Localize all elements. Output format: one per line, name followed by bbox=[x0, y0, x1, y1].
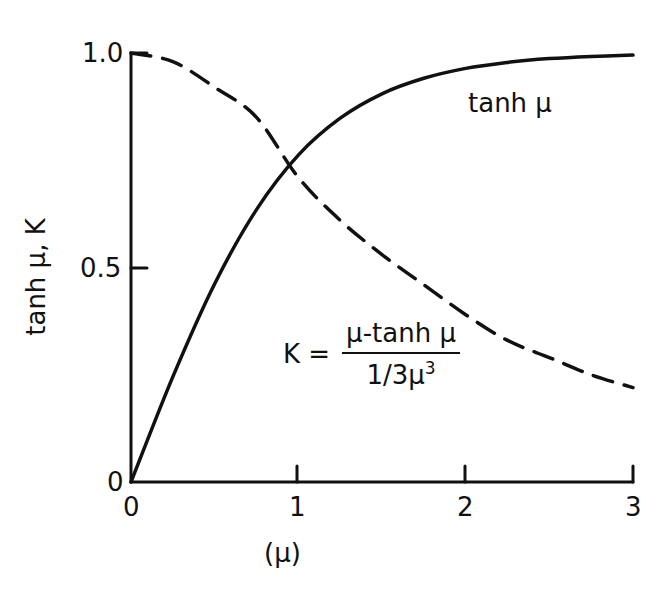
k-formula-numerator: μ-tanh μ bbox=[342, 318, 460, 354]
k-formula-den-exponent: 3 bbox=[425, 358, 436, 378]
axes bbox=[131, 53, 633, 482]
x-tick-label-0: 0 bbox=[123, 494, 140, 520]
y-tick-label-05: 0.5 bbox=[80, 255, 121, 281]
k-formula: K = μ-tanh μ 1/3μ3 bbox=[283, 318, 460, 390]
y-tick-label-1: 1.0 bbox=[82, 40, 123, 66]
tanh-curve bbox=[131, 55, 633, 482]
y-tick-label-0: 0 bbox=[107, 469, 124, 495]
tanh-curve-label: tanh μ bbox=[468, 90, 552, 116]
x-tick-label-1: 1 bbox=[289, 494, 306, 520]
x-tick-label-3: 3 bbox=[625, 494, 642, 520]
k-formula-den-base: 1/3μ bbox=[366, 360, 424, 390]
k-formula-lhs: K = bbox=[283, 339, 330, 369]
x-tick-label-2: 2 bbox=[457, 494, 474, 520]
k-formula-denominator: 1/3μ3 bbox=[366, 354, 435, 390]
x-axis-label: (μ) bbox=[264, 540, 301, 566]
k-formula-fraction: μ-tanh μ 1/3μ3 bbox=[342, 318, 460, 390]
y-axis-label: tanh μ, K bbox=[21, 157, 51, 397]
chart-canvas bbox=[0, 0, 669, 596]
